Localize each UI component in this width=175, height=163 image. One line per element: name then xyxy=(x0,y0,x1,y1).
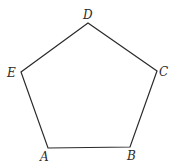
vertex-label-b: B xyxy=(126,149,136,163)
vertex-label-e: E xyxy=(6,66,16,80)
vertex-label-a: A xyxy=(39,150,49,163)
pentagon-diagram: A B C D E xyxy=(0,0,175,163)
vertex-label-c: C xyxy=(159,65,168,79)
vertex-label-d: D xyxy=(82,8,93,22)
pentagon-outline xyxy=(21,23,157,148)
